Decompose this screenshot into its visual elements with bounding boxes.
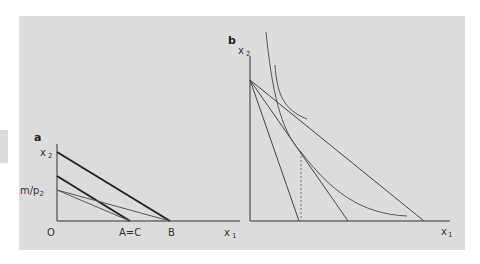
budget-line-inner bbox=[57, 176, 130, 221]
point-ac-label: A=C bbox=[119, 227, 141, 238]
budget-line-flat bbox=[250, 80, 424, 221]
panel-b-label: b bbox=[228, 34, 236, 47]
panel-a-y-label: x2 bbox=[40, 147, 52, 160]
intercept-label: m/p2 bbox=[20, 185, 44, 198]
panel-a-label: a bbox=[34, 131, 41, 144]
budget-line-steep bbox=[250, 80, 299, 221]
point-b-label: B bbox=[168, 227, 175, 238]
panel-b-x-label: x1 bbox=[441, 226, 452, 239]
kinked-line-to-ac bbox=[57, 190, 130, 221]
panel-b-y-label: x2 bbox=[238, 45, 250, 58]
panel-a: a x2 m/p2 O A=C B x1 bbox=[20, 131, 240, 240]
diagram-canvas: a x2 m/p2 O A=C B x1 b x2 x1 bbox=[0, 0, 480, 264]
kinked-line-to-b bbox=[57, 190, 170, 221]
panel-b: b x2 x1 bbox=[228, 32, 452, 239]
panel-a-x-label: x1 bbox=[224, 227, 236, 240]
origin-label: O bbox=[47, 227, 55, 238]
